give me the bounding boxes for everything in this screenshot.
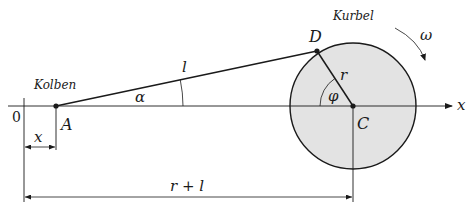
x-axis-label: x: [457, 96, 466, 114]
point-c-dot: [350, 103, 355, 108]
dimension-x-label: x: [34, 128, 43, 146]
crank-label: Kurbel: [332, 9, 374, 23]
piston-label: Kolben: [33, 78, 76, 92]
phi-label: φ: [328, 87, 339, 105]
origin-label: 0: [12, 109, 21, 125]
omega-label: ω: [420, 26, 432, 44]
slider-crank-diagram: Kolben Kurbel ω l α r φ A C D x 0 x r + …: [0, 0, 475, 206]
rod-length-label: l: [182, 58, 187, 76]
radius-label: r: [340, 66, 348, 84]
point-d-label: D: [308, 27, 322, 46]
point-c-label: C: [357, 114, 369, 133]
dimension-r-plus-l-label: r + l: [170, 177, 204, 195]
point-a-dot: [53, 103, 58, 108]
point-a-label: A: [59, 115, 73, 134]
alpha-label: α: [135, 88, 145, 106]
point-d-dot: [314, 48, 319, 53]
alpha-angle-arc: [180, 80, 183, 106]
